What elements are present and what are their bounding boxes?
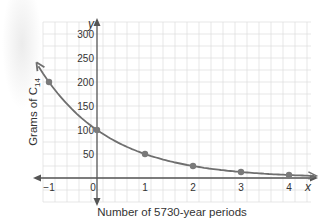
data-point <box>238 169 244 175</box>
y-axis-letter: y <box>87 17 95 31</box>
data-point <box>142 151 148 157</box>
grid <box>43 22 311 202</box>
x-tick-label: 0 <box>90 182 96 193</box>
x-tick-label: −1 <box>43 182 55 193</box>
y-tick-label: 250 <box>77 53 94 64</box>
decay-chart: −10123450100150200250300 x y Number of 5… <box>0 0 326 220</box>
tick-labels: −10123450100150200250300 <box>43 29 292 193</box>
data-point <box>94 127 100 133</box>
x-tick-label: 2 <box>190 182 196 193</box>
x-axis-title: Number of 5730-year periods <box>97 206 247 218</box>
x-tick-label: 1 <box>142 182 148 193</box>
data-point <box>286 172 292 178</box>
x-tick-label: 3 <box>238 182 244 193</box>
y-tick-label: 150 <box>77 101 94 112</box>
y-axis-title: Grams of C14 <box>27 78 42 146</box>
y-tick-label: 200 <box>77 77 94 88</box>
svg-text:Grams of C14: Grams of C14 <box>27 78 42 146</box>
x-axis-letter: x <box>304 180 312 194</box>
y-tick-label: 50 <box>83 149 95 160</box>
data-point <box>46 79 52 85</box>
data-point <box>190 163 196 169</box>
x-tick-label: 4 <box>286 182 292 193</box>
